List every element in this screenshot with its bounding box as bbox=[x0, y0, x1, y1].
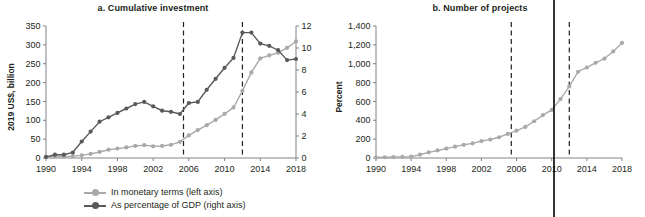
svg-text:2: 2 bbox=[302, 131, 307, 141]
svg-text:2002: 2002 bbox=[471, 164, 491, 174]
svg-text:2006: 2006 bbox=[507, 164, 527, 174]
svg-text:800: 800 bbox=[355, 78, 370, 88]
legend-marker-icon-monetary bbox=[84, 187, 106, 198]
svg-text:0: 0 bbox=[302, 153, 307, 163]
svg-text:200: 200 bbox=[25, 78, 40, 88]
svg-text:6: 6 bbox=[302, 87, 307, 97]
svg-text:2018: 2018 bbox=[286, 164, 306, 174]
svg-text:1990: 1990 bbox=[366, 164, 386, 174]
chart-panel-cumulative-investment: a. Cumulative investment 2019 US$, billi… bbox=[0, 0, 330, 217]
svg-text:250: 250 bbox=[25, 59, 40, 69]
legend-item-percentage-gdp: As percentage of GDP (right axis) bbox=[84, 199, 308, 212]
svg-text:10: 10 bbox=[302, 43, 312, 53]
svg-text:350: 350 bbox=[25, 21, 40, 31]
svg-text:0: 0 bbox=[365, 153, 370, 163]
legend-label-gdp: As percentage of GDP (right axis) bbox=[111, 200, 245, 211]
svg-text:1994: 1994 bbox=[401, 164, 421, 174]
svg-text:100: 100 bbox=[25, 115, 40, 125]
svg-text:1998: 1998 bbox=[107, 164, 127, 174]
svg-text:0: 0 bbox=[35, 153, 40, 163]
legend-marker-icon-gdp bbox=[84, 200, 106, 211]
svg-text:1994: 1994 bbox=[72, 164, 92, 174]
panel-b-plot: 02004006008001,0001,2001,400199019941998… bbox=[330, 0, 645, 180]
legend-item-monetary-terms: In monetary terms (left axis) bbox=[84, 186, 308, 199]
svg-text:2010: 2010 bbox=[542, 164, 562, 174]
svg-text:50: 50 bbox=[30, 134, 40, 144]
panel-a-plot: 0501001502002503003500246810121990199419… bbox=[0, 0, 330, 180]
svg-text:200: 200 bbox=[355, 134, 370, 144]
svg-text:2014: 2014 bbox=[250, 164, 270, 174]
svg-text:2014: 2014 bbox=[577, 164, 597, 174]
svg-text:12: 12 bbox=[302, 21, 312, 31]
svg-text:2018: 2018 bbox=[612, 164, 632, 174]
svg-text:600: 600 bbox=[355, 97, 370, 107]
svg-text:2006: 2006 bbox=[179, 164, 199, 174]
svg-text:1,000: 1,000 bbox=[348, 59, 371, 69]
svg-text:300: 300 bbox=[25, 40, 40, 50]
chart-panel-number-of-projects: b. Number of projects 02004006008001,000… bbox=[330, 0, 645, 217]
svg-text:8: 8 bbox=[302, 65, 307, 75]
svg-text:2010: 2010 bbox=[215, 164, 235, 174]
svg-text:2002: 2002 bbox=[143, 164, 163, 174]
svg-text:1,400: 1,400 bbox=[348, 21, 371, 31]
legend-label-monetary: In monetary terms (left axis) bbox=[111, 187, 223, 198]
figure-container: a. Cumulative investment 2019 US$, billi… bbox=[0, 0, 645, 217]
svg-text:1990: 1990 bbox=[36, 164, 56, 174]
svg-text:150: 150 bbox=[25, 97, 40, 107]
svg-text:4: 4 bbox=[302, 109, 307, 119]
svg-text:1,200: 1,200 bbox=[348, 40, 371, 50]
chart-legend: In monetary terms (left axis) As percent… bbox=[58, 186, 308, 212]
svg-text:1998: 1998 bbox=[436, 164, 456, 174]
svg-text:400: 400 bbox=[355, 115, 370, 125]
